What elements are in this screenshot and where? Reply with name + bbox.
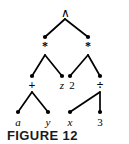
tree-node-label-n7: a	[15, 117, 21, 128]
tree-edge	[45, 55, 62, 76]
tree-edge	[45, 19, 65, 37]
tree-node-label-n3: +	[29, 79, 36, 91]
tree-edge	[70, 92, 100, 112]
tree-node-label-n4: z	[60, 80, 64, 91]
tree-edge	[65, 19, 88, 37]
tree-node-dot	[46, 110, 50, 114]
tree-node-label-n2: *	[85, 40, 91, 52]
figure-caption: FIGURE 12	[7, 128, 78, 143]
tree-edge	[18, 92, 32, 112]
tree-node-label-n10: 3	[97, 117, 103, 128]
tree-node-dot	[68, 110, 72, 114]
tree-edge-group	[18, 19, 100, 112]
tree-node-dot	[16, 110, 20, 114]
tree-edge	[32, 55, 45, 76]
tree-node-label-n8: y	[46, 117, 51, 128]
tree-node-label-n9: x	[68, 117, 73, 128]
tree-edge	[70, 55, 88, 76]
tree-node-label-n5: 2	[69, 80, 75, 91]
tree-node-label-n0: ∧	[61, 7, 70, 19]
tree-node-label-n1: *	[42, 40, 48, 52]
tree-node-dot	[60, 74, 64, 78]
tree-node-label-n6: ÷	[97, 79, 104, 91]
tree-edge	[88, 55, 100, 76]
tree-node-dot	[68, 74, 72, 78]
tree-node-dot	[98, 110, 102, 114]
figure-container: ∧**+z2÷ayx3 FIGURE 12	[0, 0, 129, 144]
tree-edge	[32, 92, 48, 112]
